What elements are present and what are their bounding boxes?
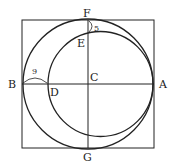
diagram-canvas: A B C D E F G 9 5 [0,0,169,168]
label-c: C [90,71,98,84]
geometry-diagram: A B C D E F G 9 5 [0,0,169,168]
label-e: E [77,37,85,50]
measure-bd: 9 [32,67,37,76]
label-b: B [8,78,16,91]
label-f: F [83,7,91,20]
label-d: D [50,86,59,99]
label-g: G [83,151,92,164]
label-a: A [158,78,168,91]
measure-fe: 5 [94,24,99,33]
arc-fe [89,21,92,32]
arc-bd [23,78,47,83]
